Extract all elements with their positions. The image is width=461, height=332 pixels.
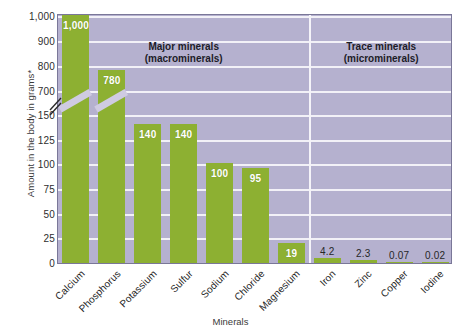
bar-value-label: 140 xyxy=(162,129,205,140)
group-heading-trace-line1: Trace minerals xyxy=(291,41,452,53)
y-tick-label: 800 xyxy=(9,61,55,72)
y-tick-label: 50 xyxy=(9,208,55,219)
group-heading-trace-line2: (microminerals) xyxy=(291,53,452,65)
gridline xyxy=(58,16,451,18)
bar xyxy=(386,262,413,264)
gridline xyxy=(58,263,451,264)
bar xyxy=(422,262,449,264)
y-tick-label: 125 xyxy=(9,134,55,145)
gridline xyxy=(58,66,451,68)
y-tick-label: 100 xyxy=(9,159,55,170)
group-heading-major-line1: Major minerals xyxy=(94,41,274,53)
y-tick-label: 0 xyxy=(9,258,55,269)
bar xyxy=(170,124,197,263)
bar xyxy=(134,124,161,263)
bar xyxy=(350,260,377,263)
group-heading-major-minerals: Major minerals (macrominerals) xyxy=(94,41,274,65)
bar-value-label: 780 xyxy=(90,75,133,86)
x-axis-title: Minerals xyxy=(0,316,461,327)
group-heading-major-line2: (macrominerals) xyxy=(94,53,274,65)
bar xyxy=(62,15,89,263)
bar-value-label: 95 xyxy=(234,173,277,184)
bar xyxy=(314,258,341,263)
y-tick-label: 700 xyxy=(9,86,55,97)
group-heading-trace-minerals: Trace minerals (microminerals) xyxy=(291,41,452,65)
y-axis-tick-labels: 1,0009008007001501251007550250 xyxy=(3,0,55,332)
mineral-amount-bar-chart: Amount in the body in grams* 1,000900800… xyxy=(0,0,461,332)
y-tick-label: 75 xyxy=(9,184,55,195)
y-tick-label: 25 xyxy=(9,233,55,244)
bar-value-label: 1,000 xyxy=(57,20,97,31)
y-tick-label: 900 xyxy=(9,36,55,47)
bar-value-label: 0.02 xyxy=(414,250,452,261)
y-tick-label: 150 xyxy=(9,110,55,121)
y-tick-label: 1,000 xyxy=(9,11,55,22)
plot-area: 1,00078014014010095194.22.30.070.02 Majo… xyxy=(57,14,452,264)
